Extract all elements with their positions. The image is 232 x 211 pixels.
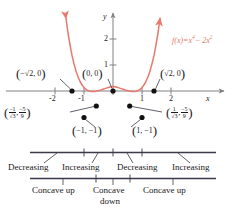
paren-close: ) (181, 66, 185, 81)
x-axis-label: x (206, 95, 210, 103)
x-tick-label-1: 1 (140, 95, 144, 103)
label-inflection-left: ( −1 √3 , −5 9 ) (4, 106, 31, 120)
leader-inflection-right (132, 107, 162, 113)
fn-exp-2: 2 (210, 34, 213, 40)
inflection-left-y-den: 9 (19, 112, 26, 119)
inflection-left-y-fraction: −5 9 (19, 106, 26, 120)
figure-container: x y -2 -1 1 2 1 2 f(x)=x4− 2x2 (−√2, 0) … (0, 0, 232, 211)
inflection-right-x-fraction: 1 √3 (171, 106, 178, 120)
graph-canvas (0, 0, 232, 211)
concavity-label-up-2: Concave up (143, 186, 186, 195)
concavity-label-down-line1: Concave (93, 186, 125, 195)
monotonicity-label-decreasing-1: Decreasing (8, 163, 48, 172)
inflection-right-y-fraction: −5 9 (181, 106, 188, 120)
leader-root-left (60, 79, 71, 89)
label-root-right-x: √2 (164, 69, 172, 78)
inflection-right-y-den: 9 (181, 112, 188, 119)
label-min-right-y: −1 (144, 126, 153, 135)
x-tick-label-neg2: -2 (49, 95, 56, 103)
inflection-left-x-num: −1 (9, 106, 16, 112)
y-tick-label-2: 2 (104, 35, 108, 43)
concavity-label-down-line2: down (100, 197, 120, 206)
label-origin: (0, 0) (82, 70, 103, 78)
point-origin (110, 88, 115, 93)
label-root-left-x: −√2 (20, 69, 33, 78)
inflection-left-y-num: −5 (19, 106, 26, 112)
inflection-right-x-den: √3 (171, 112, 178, 119)
label-min-right: (1, −1) (132, 127, 157, 135)
inflection-left-x-fraction: −1 √3 (9, 106, 16, 120)
point-root-right (151, 88, 156, 93)
point-inflection-right (127, 103, 132, 108)
fn-minus2: − 2 (195, 36, 206, 45)
monotonicity-label-increasing-1: Increasing (62, 163, 99, 172)
fn-fx: f(x) (172, 36, 183, 45)
monotonicity-bracket (30, 149, 216, 164)
label-root-left: (−√2, 0) (16, 70, 46, 78)
point-inflection-left (94, 103, 99, 108)
paren-close: ) (98, 66, 102, 81)
monotonicity-label-increasing-2: Increasing (172, 163, 209, 172)
leader-inflection-left (70, 107, 94, 113)
label-root-right: (√2, 0) (160, 70, 185, 78)
inflection-left-x-den: √3 (9, 112, 16, 119)
y-tick-label-1: 1 (104, 61, 108, 69)
leader-lines (60, 79, 162, 127)
x-tick-label-2: 2 (169, 95, 173, 103)
label-inflection-right: ( 1 √3 , −5 9 ) (166, 106, 193, 120)
x-tick-label-neg1: -1 (78, 95, 85, 103)
paren-close: ) (97, 123, 101, 138)
paren-close: ) (153, 123, 157, 138)
paren-close: ) (41, 66, 45, 81)
monotonicity-label-decreasing-2: Decreasing (117, 163, 157, 172)
label-min-left-x: −1 (76, 126, 85, 135)
concavity-label-up-1: Concave up (32, 186, 75, 195)
concavity-bracket (30, 175, 216, 186)
y-axis-label: y (103, 13, 107, 21)
function-equation-label: f(x)=x4− 2x2 (172, 35, 213, 45)
inflection-right-y-num: −5 (181, 106, 188, 112)
label-min-left: (−1, −1) (72, 127, 102, 135)
